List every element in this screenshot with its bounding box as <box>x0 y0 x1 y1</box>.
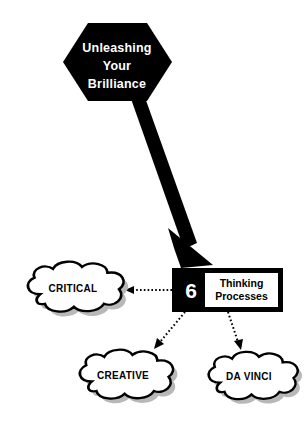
cloud-critical-label: CRITICAL <box>48 283 97 294</box>
hexagon-line-2: Your <box>103 59 131 73</box>
process-box-label-line-1: Thinking <box>220 277 264 289</box>
cloud-critical[interactable]: CRITICAL <box>28 262 128 317</box>
cloud-creative-label: CREATIVE <box>97 370 149 381</box>
title-hexagon: Unleashing Your Brilliance <box>63 23 172 101</box>
connector-to-critical <box>125 286 172 294</box>
cloud-creative[interactable]: CREATIVE <box>80 350 178 404</box>
main-arrow <box>130 92 213 268</box>
diagram-canvas: Unleashing Your Brilliance 6 Thinking Pr… <box>0 0 304 432</box>
connector-to-davinci <box>228 312 243 350</box>
hexagon-line-3: Brilliance <box>88 77 146 91</box>
hexagon-line-1: Unleashing <box>82 41 151 55</box>
process-box-number: 6 <box>185 279 197 302</box>
process-box-label-line-2: Processes <box>215 290 268 302</box>
process-box[interactable]: 6 Thinking Processes <box>172 268 283 312</box>
diagram-svg: Unleashing Your Brilliance 6 Thinking Pr… <box>0 0 304 432</box>
cloud-davinci-label: DA VINCI <box>226 371 272 382</box>
connector-to-creative <box>154 312 185 349</box>
cloud-davinci[interactable]: DA VINCI <box>209 352 302 404</box>
